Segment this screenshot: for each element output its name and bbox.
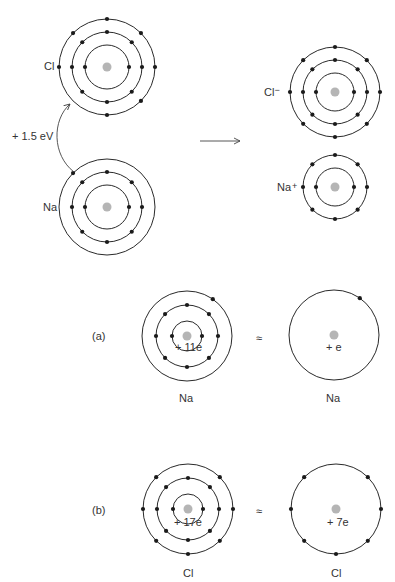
electron [365, 185, 369, 189]
electron [207, 356, 211, 360]
electron [164, 485, 168, 489]
energy-label: + 1.5 eV [12, 130, 54, 142]
panel-a-tag: (a) [92, 330, 105, 342]
electron [83, 205, 87, 209]
chlorine-full-model [141, 464, 235, 556]
electron [208, 529, 212, 533]
electron [130, 40, 134, 44]
sodium-ion [301, 153, 369, 221]
electron [302, 475, 306, 479]
na-ion-label: Na+ [277, 181, 297, 193]
panel-a-simple-label: Na [326, 392, 341, 404]
electron [70, 65, 74, 69]
electron [105, 113, 109, 117]
chloride-ion [288, 45, 382, 139]
nucleus [103, 203, 112, 212]
na-ion-sign: + [292, 181, 297, 191]
electron [333, 135, 337, 139]
electron [57, 65, 61, 69]
electron [140, 65, 144, 69]
electron-transfer-arrow [57, 104, 74, 172]
electron [301, 185, 305, 189]
panel-b-simple-charge: + 7e [327, 516, 349, 528]
electron [141, 507, 145, 511]
sodium-simplified-model [289, 290, 379, 380]
chlorine-atom [57, 17, 157, 117]
na-ion-symbol: Na [277, 181, 292, 193]
electron [333, 153, 337, 157]
electron [289, 507, 293, 511]
cl-ion-symbol: Cl [264, 86, 274, 98]
electron [352, 90, 356, 94]
electron [186, 476, 190, 480]
cl-ion-sign: − [274, 85, 279, 95]
electron [218, 475, 222, 479]
electron [356, 113, 360, 117]
nucleus [332, 505, 341, 514]
sodium-full-model [142, 291, 232, 381]
nucleus [103, 63, 112, 72]
electron [302, 539, 306, 543]
chlorine-simplified-model [289, 464, 383, 556]
electron [301, 90, 305, 94]
electron [127, 65, 131, 69]
electron [105, 17, 109, 21]
electron [334, 552, 338, 556]
electron [310, 113, 314, 117]
electron [365, 90, 369, 94]
electron [314, 90, 318, 94]
cl-ion-label: Cl− [264, 85, 280, 98]
electron [310, 162, 314, 166]
electron [154, 475, 158, 479]
electron [358, 296, 362, 300]
electron [163, 356, 167, 360]
electron [333, 45, 337, 49]
electron [366, 475, 370, 479]
electron [155, 507, 159, 511]
electron [211, 297, 215, 301]
panel-b-tag: (b) [92, 504, 105, 516]
electron [80, 230, 84, 234]
panel-a-approx: ≈ [256, 332, 262, 344]
electron [200, 334, 204, 338]
electron [301, 122, 305, 126]
electron [333, 58, 337, 62]
electron [185, 303, 189, 307]
electron [366, 539, 370, 543]
electron [288, 90, 292, 94]
electron [365, 58, 369, 62]
panel-b-approx: ≈ [256, 505, 262, 517]
electron [314, 185, 318, 189]
electron [216, 334, 220, 338]
electron [80, 180, 84, 184]
electron [163, 312, 167, 316]
electron [378, 90, 382, 94]
electron [130, 90, 134, 94]
cl-label: Cl [44, 60, 54, 72]
electron [310, 67, 314, 71]
electron [333, 217, 337, 221]
electron [139, 31, 143, 35]
electron [201, 507, 205, 511]
nucleus [183, 332, 192, 341]
electron [83, 65, 87, 69]
electron [164, 529, 168, 533]
na-label: Na [43, 201, 58, 213]
electron [301, 58, 305, 62]
electron [356, 67, 360, 71]
electron [171, 507, 175, 511]
panel-b-simple-label: Cl [331, 567, 341, 579]
panel-b-full-charge: + 17e [174, 516, 202, 528]
ionic-bond-diagram: + 1.5 eV Cl Na Cl− Na+ (a) ≈ + 11e + e N… [0, 0, 395, 582]
electron [379, 507, 383, 511]
electron [170, 334, 174, 338]
electron [356, 208, 360, 212]
electron [231, 507, 235, 511]
electron [333, 122, 337, 126]
electron [217, 507, 221, 511]
electron [352, 185, 356, 189]
electron [208, 485, 212, 489]
electron [310, 208, 314, 212]
electron [185, 365, 189, 369]
nucleus [331, 183, 340, 192]
